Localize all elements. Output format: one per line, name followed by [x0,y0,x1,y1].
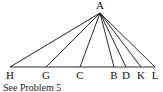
caption: See Problem 5 [3,82,61,92]
segment-ac [80,13,100,67]
segment-ab [100,13,114,67]
segment-ak [100,13,141,67]
point-label-l: L [152,69,159,81]
segment-al [100,13,155,67]
point-label-a: A [96,0,104,11]
base-point-labels: HGCBDKL [6,69,159,81]
geometry-diagram: A HGCBDKL See Problem 5 [0,0,163,92]
segment-ah [10,13,100,67]
point-label-c: C [76,69,83,81]
segments [10,13,155,67]
point-label-g: G [42,69,50,81]
segment-ad [100,13,126,67]
point-label-d: D [122,69,130,81]
point-label-k: K [137,69,145,81]
point-label-h: H [6,69,14,81]
segment-ag [46,13,100,67]
point-label-b: B [110,69,117,81]
